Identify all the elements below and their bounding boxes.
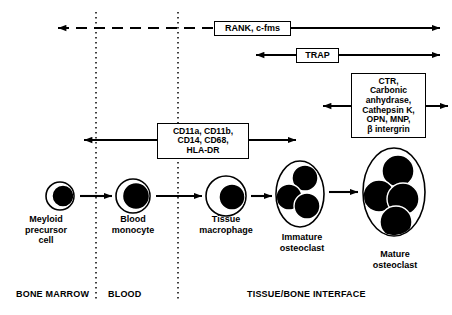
cell-nucleus	[52, 185, 74, 207]
zone-label-bone-marrow: BONE MARROW	[16, 289, 89, 299]
cell-label-immature-osteoclast: Immature osteoclast	[262, 232, 342, 253]
marker-box-trap: TRAP	[296, 48, 339, 63]
marker-box-rank: RANK, c-fms	[214, 21, 291, 36]
zone-label-blood: BLOOD	[108, 289, 142, 299]
osteoclast-differentiation-figure: RANK, c-fms TRAP CTR, Carbonic anhydrase…	[0, 0, 452, 315]
marker-box-rank-text: RANK, c-fms	[218, 23, 287, 33]
cell-nucleus	[294, 193, 320, 219]
cell-tissue-macrophage	[206, 176, 246, 216]
cell-nucleus	[123, 183, 150, 210]
cell-myeloid-precursor	[46, 182, 74, 210]
marker-box-cd-text: CD11a, CD11b, CD14, CD68, HLA-DR	[161, 127, 245, 156]
cell-mature-osteoclast	[363, 148, 425, 238]
cell-label-myeloid-precursor: Meyloid precursor cell	[10, 214, 82, 246]
cell-label-tissue-macrophage: Tissue macrophage	[188, 214, 264, 235]
cell-nucleus	[219, 184, 245, 210]
cell-immature-osteoclast	[276, 161, 324, 227]
cell-label-mature-osteoclast: Mature osteoclast	[355, 249, 435, 270]
zone-label-tissue-bone-interface: TISSUE/BONE INTERFACE	[247, 289, 366, 299]
marker-box-ctr-text: CTR, Carbonic anhydrase, Cathepsin K, OP…	[355, 77, 422, 135]
cell-blood-monocyte	[116, 179, 150, 213]
cell-label-blood-monocyte: Blood monocyte	[97, 214, 169, 235]
marker-box-ctr: CTR, Carbonic anhydrase, Cathepsin K, OP…	[351, 73, 426, 138]
marker-box-trap-text: TRAP	[300, 50, 335, 60]
marker-box-cd: CD11a, CD11b, CD14, CD68, HLA-DR	[157, 123, 249, 159]
